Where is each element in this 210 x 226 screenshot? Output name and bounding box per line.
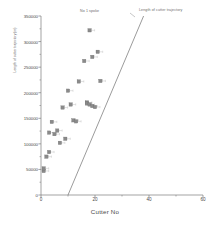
y-tick-label: 250000 — [4, 65, 38, 70]
y-tick-label: 50000 — [4, 167, 38, 172]
annotation-leader-line — [130, 13, 135, 17]
y-tick-label: 200000 — [4, 90, 38, 95]
trajectory-line — [68, 16, 144, 195]
annotation-length-of-cutter-trajectory: Length of cutter trajectory — [139, 8, 182, 12]
annotation-no-1-spoke: No 1 spoke — [80, 9, 99, 13]
y-tick-label: 100000 — [4, 141, 38, 146]
y-tick-label: 150000 — [4, 116, 38, 121]
x-tick-label: 40 — [146, 197, 151, 202]
y-tick-label: 300000 — [4, 39, 38, 44]
y-tick-label: 350000 — [4, 14, 38, 19]
y-axis-tick-labels: 0500001000001500002000002500003000003500… — [0, 0, 38, 226]
x-axis-title: Cutter No — [0, 208, 210, 215]
chart-container: Length of cutter trajectory (m) 05000010… — [0, 0, 210, 226]
x-axis-tick-labels: 0204060 — [0, 197, 210, 207]
x-tick-label: 0 — [40, 197, 43, 202]
data-points — [42, 29, 105, 173]
x-tick-label: 60 — [200, 197, 205, 202]
x-tick-label: 20 — [92, 197, 97, 202]
axis-lines — [41, 16, 203, 195]
